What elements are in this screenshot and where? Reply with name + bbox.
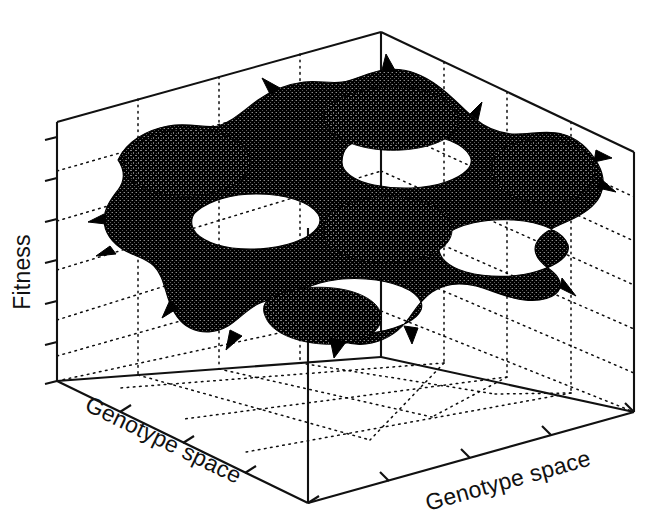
fitness-landscape-figure: Fitness Genotype space Genotype space [0,0,664,530]
surface-central-peak [323,197,452,263]
z-axis-label: Fitness [9,234,35,310]
surface-plot-canvas: Fitness Genotype space Genotype space [0,0,664,530]
z-axis-ticks [45,137,57,384]
